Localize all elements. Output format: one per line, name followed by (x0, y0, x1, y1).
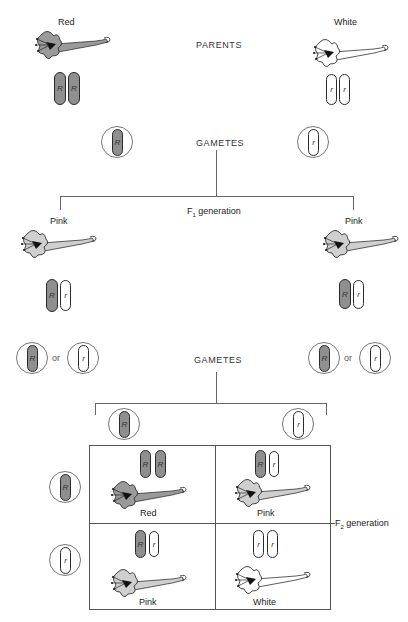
allele-label: R (122, 420, 128, 429)
grid-divider-vertical (215, 445, 216, 610)
allele-label: r (64, 291, 67, 300)
f2-generation-label: F2 generation (335, 518, 389, 530)
gamete-circle-recessive: r (359, 342, 391, 374)
parent-right-phenotype-label: White (334, 17, 357, 27)
gamete-circle-recessive: r (282, 408, 314, 440)
or-label: or (52, 353, 60, 363)
allele-label: R (138, 540, 144, 549)
bracket-line-left (95, 403, 96, 415)
or-label: or (344, 353, 352, 363)
chromosome-recessive: r (149, 531, 159, 557)
connector-line-right (353, 196, 354, 210)
parent-left-phenotype-label: Red (58, 17, 75, 27)
grid-divider-horizontal (89, 523, 335, 524)
cell-phenotype-label: Red (140, 508, 157, 518)
gamete-circle-dominant: R (101, 126, 133, 158)
pink-flower-icon (20, 229, 100, 265)
chromosome-dominant: R (119, 411, 130, 438)
gametes-heading: GAMETES (196, 138, 244, 148)
chromosome-recessive: r (339, 74, 350, 105)
bracket-line-right (326, 403, 327, 415)
f1-generation-label: F1 generation (187, 206, 241, 218)
allele-label: r (312, 138, 315, 147)
white-flower-icon (312, 38, 392, 74)
chromosome-dominant: R (155, 450, 166, 478)
connector-line-vertical (216, 150, 217, 196)
allele-label: r (82, 354, 85, 363)
cell-phenotype-label: White (253, 597, 276, 607)
chromosome-recessive: r (60, 280, 71, 311)
chromosome-dominant: R (339, 279, 351, 309)
allele-label: R (158, 460, 164, 469)
pink-flower-icon (322, 229, 402, 265)
gamete-circle-recessive: r (67, 342, 99, 374)
connector-line-vertical (216, 372, 217, 403)
allele-label: R (30, 354, 36, 363)
allele-label: r (153, 540, 156, 549)
chromosome-dominant: R (27, 345, 38, 372)
chromosome-recessive: r (267, 530, 278, 558)
chromosome-recessive: r (253, 530, 264, 558)
chromosome-dominant: R (319, 345, 330, 372)
f1-right-phenotype-label: Pink (345, 216, 363, 226)
chromosome-dominant: R (46, 279, 58, 312)
chromosome-dominant: R (140, 450, 151, 478)
connector-line-left (60, 196, 61, 210)
allele-label: R (49, 291, 55, 300)
allele-label: r (297, 420, 300, 429)
gamete-circle-dominant: R (49, 471, 81, 503)
allele-label: r (343, 85, 346, 94)
allele-label: r (273, 460, 276, 469)
chromosome-dominant: R (60, 474, 71, 501)
red-flower-icon (34, 30, 114, 66)
chromosome-recessive: r (60, 547, 71, 574)
cell-phenotype-label: Pink (257, 508, 275, 518)
allele-label: r (271, 540, 274, 549)
chromosome-recessive: r (353, 280, 364, 309)
chromosome-dominant: R (54, 72, 66, 105)
allele-label: R (115, 138, 121, 147)
chromosome-recessive: r (269, 451, 279, 477)
chromosome-recessive: r (326, 74, 337, 105)
f1-left-phenotype-label: Pink (50, 216, 68, 226)
chromosome-dominant: R (68, 72, 80, 105)
gamete-circle-recessive: r (297, 126, 329, 158)
allele-label: r (374, 354, 377, 363)
allele-label: R (57, 84, 63, 93)
cell-phenotype-label: Pink (139, 597, 157, 607)
gamete-circle-dominant: R (16, 342, 48, 374)
connector-line-horizontal (60, 196, 354, 197)
white-flower-icon (234, 565, 314, 601)
gamete-circle-dominant: R (308, 342, 340, 374)
gamete-circle-dominant: R (108, 408, 140, 440)
chromosome-dominant: R (255, 450, 266, 478)
allele-label: R (322, 354, 328, 363)
bracket-line-horizontal (95, 403, 327, 404)
allele-label: r (257, 540, 260, 549)
allele-label: R (258, 460, 264, 469)
allele-label: R (143, 460, 149, 469)
gametes-heading: GAMETES (194, 355, 242, 365)
allele-label: r (64, 556, 67, 565)
chromosome-recessive: r (308, 129, 319, 156)
allele-label: R (63, 483, 69, 492)
allele-label: r (357, 290, 360, 299)
chromosome-recessive: r (78, 345, 89, 372)
parents-heading: PARENTS (196, 40, 242, 50)
chromosome-recessive: r (293, 411, 304, 438)
chromosome-dominant: R (135, 530, 146, 558)
allele-label: R (71, 84, 77, 93)
gamete-circle-recessive: r (49, 544, 81, 576)
allele-label: R (342, 290, 348, 299)
chromosome-recessive: r (370, 345, 381, 372)
allele-label: r (330, 85, 333, 94)
chromosome-dominant: R (112, 129, 123, 156)
